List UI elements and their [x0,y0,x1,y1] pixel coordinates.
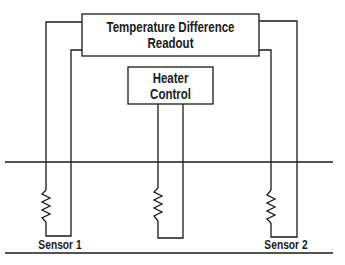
sensor-2-label: Sensor 2 [261,238,310,252]
sensor-2-resistor-icon [267,190,275,223]
heater-title-line1: Heater [136,70,206,86]
sensor-1-label: Sensor 1 [35,238,84,252]
readout-title-line1: Temperature Difference [98,19,243,35]
diagram-canvas: Temperature Difference Readout Heater Co… [0,0,345,265]
sensor-1-resistor-icon [42,190,50,222]
heater-control-title: Heater Control [136,70,206,102]
heater-resistor-icon [154,188,162,221]
heater-wire-return [158,104,183,238]
heater-title-line2: Control [136,86,206,102]
sensor-1-wire-return [46,50,82,236]
readout-title-line2: Readout [98,35,243,51]
sensor-2-wire-outer [259,21,297,237]
readout-title: Temperature Difference Readout [98,19,243,51]
sensor-2-wire-inner [259,50,271,190]
sensor-1-wire-outer [46,22,82,190]
